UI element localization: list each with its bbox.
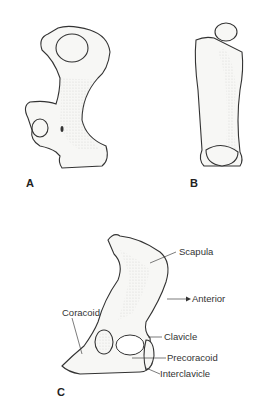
label-coracoid: Coracoid xyxy=(62,307,100,318)
label-interclavicle: Interclavicle xyxy=(160,368,210,379)
label-precoracoid: Precoracoid xyxy=(167,352,218,363)
panel-a-bone-drawing xyxy=(25,26,110,168)
panel-label-c: C xyxy=(57,386,65,398)
panel-c-girdle-drawing xyxy=(62,235,168,374)
figure-canvas: A B Scapula Anterior Coracoid Clavicle P… xyxy=(0,0,257,409)
leader-coracoid xyxy=(72,318,82,354)
label-clavicle: Clavicle xyxy=(164,331,197,342)
panel-label-a: A xyxy=(26,177,34,189)
label-scapula: Scapula xyxy=(179,246,214,257)
anterior-arrow-icon xyxy=(186,297,191,302)
panel-label-b: B xyxy=(190,177,198,189)
label-anterior: Anterior xyxy=(192,293,225,304)
panel-b-bone-drawing xyxy=(195,23,242,166)
leader-interclavicle xyxy=(146,368,160,374)
